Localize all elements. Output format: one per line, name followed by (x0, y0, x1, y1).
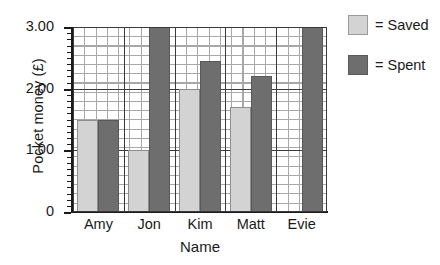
bar-jon-spent (149, 27, 170, 212)
legend-label-spent: = Spent (375, 57, 425, 73)
x-tick-label-evie: Evie (272, 216, 332, 232)
legend-item-spent: = Spent (348, 54, 429, 76)
bar-evie-spent (302, 27, 323, 212)
gridline-vertical (124, 27, 125, 212)
y-tick-mark-major (64, 27, 71, 29)
bar-jon-saved (128, 150, 149, 212)
bar-amy-saved (77, 120, 98, 213)
y-axis-title: Pocket money (£) (30, 16, 46, 216)
gridline-vertical (175, 27, 176, 212)
bar-matt-spent (251, 76, 272, 212)
y-tick-label: 0 (6, 204, 54, 219)
y-tick-mark-major (64, 212, 71, 214)
y-tick-label: 1.00 (6, 142, 54, 157)
legend-swatch-saved-icon (348, 15, 368, 35)
legend: = Saved = Spent (348, 14, 429, 94)
bar-kim-spent (200, 61, 221, 212)
legend-swatch-spent-icon (348, 55, 368, 75)
x-axis-title: Name (73, 238, 327, 255)
gridline-vertical (225, 27, 226, 212)
y-tick-mark-major (64, 150, 71, 152)
bar-matt-saved (230, 107, 251, 212)
y-tick-label: 2.00 (6, 81, 54, 96)
legend-item-saved: = Saved (348, 14, 429, 36)
gridline-horizontal (73, 27, 327, 28)
plot-area (73, 27, 327, 212)
bar-amy-spent (98, 120, 119, 213)
y-tick-mark-major (64, 89, 71, 91)
legend-label-saved: = Saved (375, 17, 429, 33)
bar-kim-saved (179, 89, 200, 212)
gridline-vertical (276, 27, 277, 212)
bar-chart: Pocket money (£) 01.002.003.00 AmyJonKim… (0, 0, 440, 265)
y-tick-label: 3.00 (6, 19, 54, 34)
